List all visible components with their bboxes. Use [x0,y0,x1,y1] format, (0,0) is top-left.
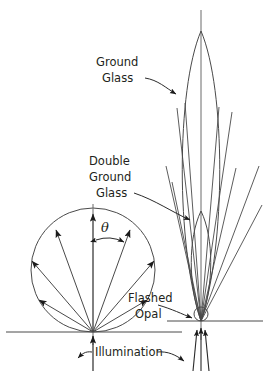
double-ground-glass-leader-arrow [134,193,190,220]
diffuser-radiation-diagram: θ [0,0,269,371]
ground-glass-callout: Ground Glass [96,55,176,94]
ground-glass-leader-arrow [145,78,176,94]
diffuser-comparison-panel [166,10,263,371]
illumination-leader-arrow-left [78,352,92,358]
flashed-opal-label-line2: Opal [135,307,162,321]
ground-glass-label-line2: Glass [102,71,133,85]
scatter-ray-p26 [201,112,232,321]
scatter-ray-n26 [177,108,201,321]
illumination-arrow-right-1 [193,330,197,371]
double-ground-glass-label-line2: Ground [89,170,131,184]
flashed-opal-label-line1: Flashed [128,291,173,305]
double-ground-glass-callout: Double Ground Glass [89,154,190,220]
scatter-ray-p62 [201,205,262,321]
scatter-ray-n40 [172,182,201,321]
illumination-label: Illumination [95,345,163,359]
ray-n60 [39,300,93,332]
ray-p20 [93,230,130,332]
ray-n40 [32,261,93,332]
illumination-arrow-group-right [193,328,209,371]
ground-glass-label-line1: Ground [96,55,138,69]
illumination-callout: Illumination [78,345,184,361]
theta-angle-marker [96,238,124,242]
scatter-ray-p14 [201,107,219,321]
scatter-ray-p40 [201,168,236,321]
scatter-ray-group [166,103,262,321]
theta-label: θ [101,220,109,235]
ray-n20 [56,230,93,332]
double-ground-glass-label-line3: Glass [96,186,127,200]
illumination-arrow-right-3 [205,330,209,371]
flashed-opal-leader-arrow [158,305,192,318]
double-ground-glass-label-line1: Double [89,154,130,168]
